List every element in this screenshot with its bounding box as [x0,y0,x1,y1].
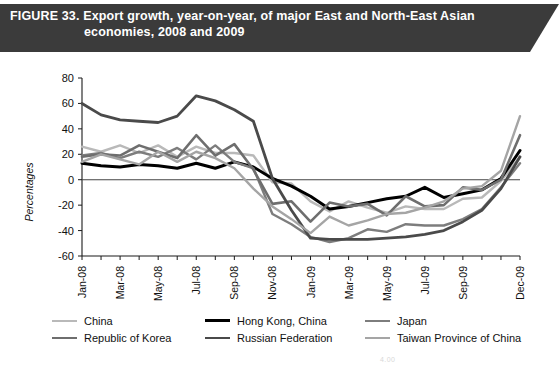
legend-label: Republic of Korea [84,332,171,344]
y-tick-label: 60 [62,97,74,109]
x-tick-label: Jul-08 [190,266,202,295]
legend-item-japan[interactable]: Japan [365,315,545,327]
y-axis-label: Percentages [23,162,35,222]
line-chart: Percentages 806040200-20-40-60 Jan-08Mar… [0,52,559,312]
y-tick-label: -20 [58,199,74,211]
legend-label: China [84,315,113,327]
series-line-republic-of-korea [82,135,520,221]
legend-swatch-icon [205,337,230,339]
legend-item-republic-of-korea[interactable]: Republic of Korea [52,332,205,344]
x-tick-label: Mar-08 [114,266,126,299]
x-tick-label: Sep-08 [228,266,240,300]
x-tick-label: Jan-09 [305,266,317,298]
legend-item-china[interactable]: China [52,315,205,327]
legend-item-russian-federation[interactable]: Russian Federation [205,332,365,344]
legend-swatch-icon [365,320,390,322]
x-tick-label: Dec-09 [514,266,526,300]
y-tick-label: 20 [62,148,74,160]
x-tick-label: May-08 [152,266,164,301]
y-tick-label: 40 [62,123,74,135]
legend-label: Japan [397,315,427,327]
series-line-taiwan-province-of-china [82,116,520,233]
figure-title: FIGURE 33. Export growth, year-on-year, … [10,8,530,40]
legend-swatch-icon [205,319,230,322]
x-tick-label: Sep-09 [457,266,469,300]
x-tick-label: Mar-09 [343,266,355,299]
legend-item-hong-kong-china[interactable]: Hong Kong, China [205,315,365,327]
y-tick-label: -40 [58,225,74,237]
legend-label: Hong Kong, China [237,315,327,327]
figure-title-line-2: economies, 2008 and 2009 [10,24,530,40]
legend-label: Taiwan Province of China [397,332,521,344]
legend-swatch-icon [52,337,77,339]
x-tick-label: May-09 [381,266,393,301]
legend-swatch-icon [52,320,77,322]
x-tick-label: Jul-09 [419,266,431,295]
y-tick-label: 0 [68,174,74,186]
x-tick-label: Jan-08 [76,266,88,298]
series-line-china [82,145,520,212]
y-tick-label: -60 [58,250,74,262]
y-axis-title: Percentages [23,162,35,222]
footer-fragment: 4.00 [380,356,395,363]
y-tick-label: 80 [62,72,74,84]
x-axis-ticks: Jan-08Mar-08May-08Jul-08Sep-08Nov-08Jan-… [76,256,526,301]
legend-item-taiwan-province-of-china[interactable]: Taiwan Province of China [365,332,545,344]
legend-row: Republic of KoreaRussian FederationTaiwa… [52,329,552,346]
x-tick-label: Nov-08 [266,266,278,300]
legend-label: Russian Federation [237,332,332,344]
figure-title-line-1: FIGURE 33. Export growth, year-on-year, … [10,8,530,24]
legend-row: ChinaHong Kong, ChinaJapan [52,312,552,329]
chart-legend: ChinaHong Kong, ChinaJapanRepublic of Ko… [52,312,552,346]
data-series-group [82,96,520,242]
y-axis-ticks: 806040200-20-40-60 [58,72,82,262]
legend-swatch-icon [365,337,390,339]
series-line-russian-federation [82,96,520,240]
